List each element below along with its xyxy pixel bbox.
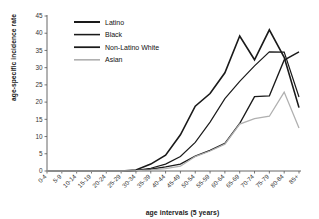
x-axis-tick-label: 65-69	[224, 172, 241, 189]
legend-label-latino: Latino	[105, 19, 124, 26]
x-axis-tick-label: 10-14	[61, 172, 78, 189]
x-axis-tick-label: 30-34	[121, 172, 138, 189]
y-axis-tick-label: 15	[35, 116, 43, 123]
y-axis-tick-label: 45	[35, 12, 43, 19]
series-line-asian	[47, 92, 299, 171]
x-axis-tick-label: 70-74	[239, 172, 256, 189]
y-axis-tick-label: 25	[35, 81, 43, 88]
series-line-non-latino-white	[47, 52, 299, 171]
y-axis-tick-label: 30	[35, 64, 43, 71]
chart-container: age-specific incidence rate 051015202530…	[0, 0, 319, 219]
y-axis-tick-label: 40	[35, 29, 43, 36]
x-axis-tick-label: 20-24	[91, 172, 108, 189]
x-axis-tick-label: 60-64	[209, 172, 226, 189]
x-axis-tick-label: 75-79	[254, 172, 271, 189]
x-axis-tick-label: 55-59	[195, 172, 212, 189]
legend-label-black: Black	[105, 31, 123, 38]
legend-label-asian: Asian	[105, 56, 123, 63]
x-axis-title: age intervals (5 years)	[100, 209, 220, 216]
x-axis-tick-label: 40-44	[150, 172, 167, 189]
x-axis-tick-label: 35-39	[135, 172, 152, 189]
series-line-latino	[47, 30, 299, 171]
x-axis-tick-label: 85+	[287, 172, 300, 185]
y-axis-tick-label: 35	[35, 47, 43, 54]
x-axis-tick-label: 25-29	[106, 172, 123, 189]
x-axis-tick-label: 50-54	[180, 172, 197, 189]
x-axis-tick-label: 80-84	[269, 172, 286, 189]
y-axis-tick-label: 20	[35, 98, 43, 105]
x-axis-tick-label: 15-19	[76, 172, 93, 189]
y-axis-tick-label: 10	[35, 133, 43, 140]
chart-plot-area: 0510152025303540450-45-910-1415-1920-242…	[0, 0, 319, 219]
legend-label-non-latino-white: Non-Latino White	[105, 44, 159, 51]
series-line-black	[47, 52, 299, 171]
x-axis-tick-label: 5-9	[51, 172, 63, 184]
x-axis-tick-label: 45-49	[165, 172, 182, 189]
y-axis-tick-label: 5	[39, 150, 43, 157]
x-axis-title-wrap: age intervals (5 years)	[0, 209, 319, 216]
